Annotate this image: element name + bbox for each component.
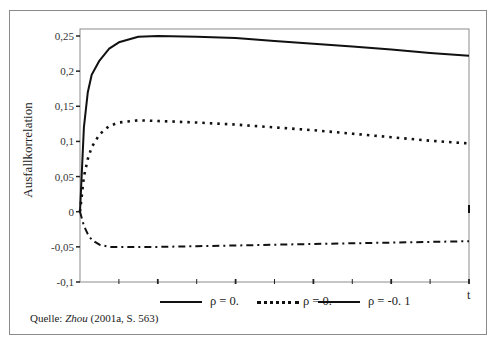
y-tick-label: 0,15 [55, 100, 75, 112]
y-tick-label: -0,05 [51, 241, 74, 253]
y-tick-label: 0 [69, 206, 75, 218]
legend-item-1: ρ = 0. [160, 294, 239, 309]
y-tick-label: -0,1 [57, 276, 74, 288]
legend-label-1: ρ = 0. [210, 294, 239, 308]
y-tick-label: 0,2 [60, 65, 74, 77]
y-tick-label: 0,25 [55, 30, 75, 42]
y-axis-title: Ausfallkorrelation [20, 102, 36, 197]
legend-label-3: ρ = -0. 1 [368, 294, 410, 308]
series-line-1 [80, 36, 469, 212]
legend-line-dotted-icon [257, 301, 299, 304]
source-caption: Quelle: Zhou (2001a, S. 563) [30, 312, 158, 324]
legend-line-solid-icon [318, 301, 360, 303]
legend-line-solid-icon [160, 301, 202, 303]
line-chart: 0,250,20,150,10,050-0,05-0,1 [0, 0, 495, 346]
source-author: Zhou [65, 312, 88, 324]
legend-item-3: ρ = -0. 1 [318, 294, 410, 309]
series-line-2 [80, 120, 469, 211]
y-tick-label: 0,05 [55, 171, 75, 183]
y-tick-label: 0,1 [60, 135, 74, 147]
x-axis-title: t [467, 288, 470, 303]
series-line-3 [80, 212, 469, 247]
